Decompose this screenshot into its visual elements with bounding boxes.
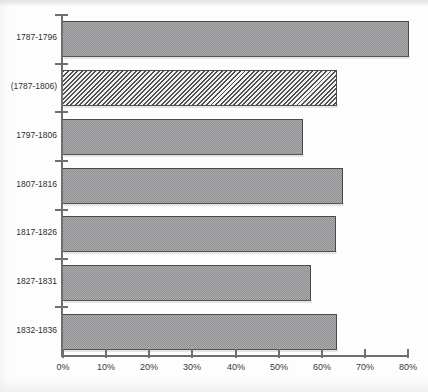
y-axis-label: 1807-1816	[1, 179, 57, 189]
y-axis-tick	[55, 306, 68, 308]
x-axis-tick-label: 10%	[86, 362, 126, 372]
bar-1787-1806	[62, 70, 337, 106]
y-axis-label: 1827-1831	[1, 276, 57, 286]
x-axis-tick	[191, 349, 193, 358]
x-axis-tick-label: 0%	[43, 362, 83, 372]
y-axis-label: (1787-1806)	[1, 81, 57, 91]
y-axis-label: 1797-1806	[1, 130, 57, 140]
bar-1817-1826	[62, 216, 336, 252]
y-axis-top-cap-tick	[55, 14, 68, 16]
x-axis-tick-label: 20%	[129, 362, 169, 372]
x-axis-tick	[278, 349, 280, 358]
x-axis-tick-label: 40%	[216, 362, 256, 372]
y-axis-tick	[55, 111, 68, 113]
y-axis-label: 1817-1826	[1, 227, 57, 237]
y-axis-labels: 1787-1796(1787-1806)1797-18061807-181618…	[0, 0, 57, 392]
x-axis-tick-label: 80%	[388, 362, 428, 372]
x-axis-tick-label: 70%	[345, 362, 385, 372]
y-axis-label: 1832-1836	[1, 325, 57, 335]
x-axis-tick	[407, 349, 409, 358]
bar-1827-1831	[62, 265, 311, 301]
y-axis-tick	[55, 63, 68, 65]
x-axis-tick	[62, 349, 64, 358]
bar-chart: 1787-1796(1787-1806)1797-18061807-181618…	[0, 0, 428, 392]
bar-1832-1836	[62, 314, 337, 350]
x-axis-tick-label: 60%	[302, 362, 342, 372]
x-axis-tick	[148, 349, 150, 358]
bar-1787-1796	[62, 21, 409, 57]
x-axis-tick-label: 50%	[259, 362, 299, 372]
y-axis-tick	[55, 160, 68, 162]
x-axis-tick-label: 30%	[172, 362, 212, 372]
x-axis-tick	[235, 349, 237, 358]
y-axis-tick	[55, 258, 68, 260]
x-axis-tick	[364, 349, 366, 358]
y-axis-label: 1787-1796	[1, 32, 57, 42]
y-axis-tick	[55, 209, 68, 211]
bar-1807-1816	[62, 168, 343, 204]
bar-1797-1806	[62, 119, 303, 155]
x-axis-tick	[321, 349, 323, 358]
x-axis-tick	[105, 349, 107, 358]
